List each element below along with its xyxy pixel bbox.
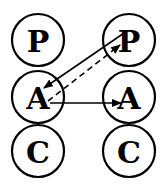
node-right-a: A — [103, 71, 155, 123]
node-right-c: C — [103, 125, 155, 177]
node-label: P — [118, 24, 141, 59]
node-label: A — [116, 81, 141, 116]
node-label: P — [27, 24, 50, 59]
node-label: C — [26, 135, 50, 170]
node-left-p: P — [12, 14, 64, 66]
node-label: C — [117, 135, 141, 170]
node-left-c: C — [12, 125, 64, 177]
pac-diagram: P A C P A C — [0, 0, 167, 194]
node-right-p: P — [103, 14, 155, 66]
